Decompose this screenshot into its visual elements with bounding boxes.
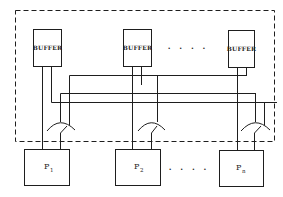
buffer-1-label: BUFFER (33, 44, 63, 51)
switch-n-blade-tip (255, 126, 262, 133)
switch-2-arc (138, 123, 165, 131)
processor-2-subscript: 2 (140, 167, 144, 173)
switch-1-arc (47, 123, 75, 131)
switch-1-blade-tip (61, 126, 68, 133)
diagram-canvas: BUFFER BUFFER BUFFER . . . . . . . . P 1… (0, 0, 283, 197)
buffer-2-label: BUFFER (123, 44, 153, 51)
switch-n-arc (241, 123, 270, 131)
processor-ellipsis: . . . . (169, 162, 210, 172)
switch-2-blade-tip (152, 126, 158, 133)
diagram-svg: BUFFER BUFFER BUFFER . . . . . . . . P 1… (0, 0, 283, 197)
processor-n-subscript: n (242, 168, 246, 174)
buffer-n-label: BUFFER (227, 45, 257, 52)
processor-1-subscript: 1 (50, 167, 54, 173)
buffer-ellipsis: . . . . (168, 41, 209, 51)
